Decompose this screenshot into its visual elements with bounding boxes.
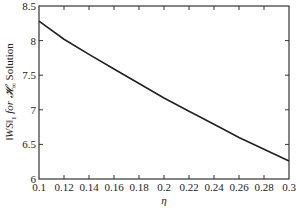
x-tick-label: 0.28 — [254, 181, 274, 193]
x-tick-label: 0.3 — [282, 181, 296, 193]
y-tick-label: 8.5 — [22, 0, 36, 12]
x-tick-label: 0.18 — [129, 181, 149, 193]
y-tick-label: 6 — [31, 173, 37, 185]
y-tick-label: 6.5 — [22, 138, 36, 150]
x-tick-label: 0.22 — [179, 181, 198, 193]
x-tick-label: 0.16 — [104, 181, 124, 193]
y-tick-label: 7 — [31, 104, 37, 116]
y-tick-label: 8 — [31, 35, 37, 47]
plot-area — [39, 6, 289, 179]
x-tick-label: 0.26 — [229, 181, 249, 193]
y-tick-label: 7.5 — [22, 69, 36, 81]
x-tick-label: 0.2 — [157, 181, 171, 193]
y-axis-label: ‖WS‖1 for 𝓗∞ Solution — [3, 43, 18, 141]
x-tick-label: 0.14 — [79, 181, 99, 193]
data-line — [39, 21, 289, 161]
x-axis-label: η — [161, 194, 166, 206]
x-tick-label: 0.24 — [204, 181, 224, 193]
x-tick-label: 0.12 — [54, 181, 73, 193]
x-axis-ticks: 0.10.120.140.160.180.20.220.240.260.280.… — [32, 6, 296, 193]
line-chart: 0.10.120.140.160.180.20.220.240.260.280.… — [0, 0, 296, 211]
